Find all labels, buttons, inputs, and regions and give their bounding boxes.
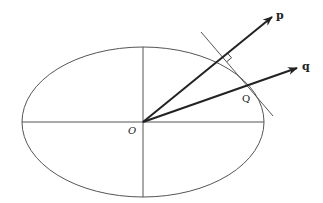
label-p: p bbox=[276, 9, 284, 22]
label-q: q bbox=[302, 60, 310, 73]
vector-p-arrow bbox=[143, 17, 272, 122]
vector-q-arrow bbox=[143, 68, 297, 122]
label-O: O bbox=[128, 125, 136, 136]
label-Q: Q bbox=[242, 93, 250, 104]
ellipse-diagram: p q Q O bbox=[0, 0, 323, 203]
